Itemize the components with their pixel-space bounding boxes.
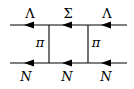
bottom-label-n-left: N bbox=[19, 69, 32, 84]
arrow-left-icon bbox=[62, 60, 72, 67]
arrow-left-icon bbox=[24, 22, 34, 29]
pion-label-left: π bbox=[35, 35, 45, 50]
top-label-lambda-left: Λ bbox=[24, 6, 35, 21]
bottom-label-n-right: N bbox=[99, 69, 112, 84]
arrow-left-icon bbox=[101, 22, 111, 29]
feynman-diagram: Λ Σ Λ π π N N N bbox=[0, 0, 134, 89]
arrow-left-icon bbox=[101, 60, 111, 67]
bottom-label-n-middle: N bbox=[60, 69, 73, 84]
pion-label-right: π bbox=[91, 35, 101, 50]
arrow-left-icon bbox=[62, 22, 72, 29]
top-label-lambda-right: Λ bbox=[101, 6, 112, 21]
arrow-left-icon bbox=[24, 60, 34, 67]
top-label-sigma: Σ bbox=[63, 6, 72, 21]
